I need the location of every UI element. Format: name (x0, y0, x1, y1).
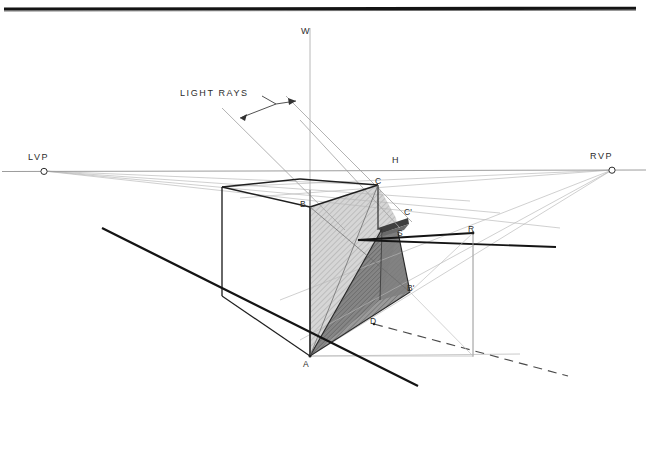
label-c-prime: C' (404, 207, 412, 217)
r-drop-line (410, 233, 473, 357)
label-b: B (300, 199, 307, 209)
leader-fork-path (240, 96, 276, 118)
technical-drawing-svg (0, 0, 646, 453)
perspective-drawing-canvas: W H LVP RVP LIGHT RAYS A B C C' B' D R S (0, 0, 646, 453)
label-r: R (468, 224, 475, 234)
label-a: A (303, 359, 310, 369)
shadow-right-band (380, 229, 410, 300)
label-light-rays: LIGHT RAYS (180, 88, 249, 98)
horizon-line (2, 170, 646, 172)
label-b-prime: B' (407, 283, 415, 293)
rvp-marker-circle (609, 167, 615, 173)
label-d: D (370, 316, 377, 326)
sheet-border (4, 8, 636, 11)
lvp-ray-to-s (44, 171, 500, 213)
label-h: H (392, 155, 400, 165)
leader-arrowhead-right (288, 98, 296, 105)
label-w: W (301, 26, 311, 36)
label-rvp: RVP (590, 151, 613, 161)
label-c: C (375, 176, 382, 186)
leader-arrowhead-left (240, 114, 247, 121)
box-edge-top-left (222, 187, 310, 207)
label-s: S (397, 228, 404, 238)
lvp-marker-circle (41, 168, 47, 174)
dashed-ground-line (374, 324, 568, 376)
label-lvp: LVP (28, 152, 49, 162)
light-ray-1 (222, 108, 345, 230)
point-a-tick (309, 355, 312, 358)
light-rays-leader (240, 96, 296, 121)
